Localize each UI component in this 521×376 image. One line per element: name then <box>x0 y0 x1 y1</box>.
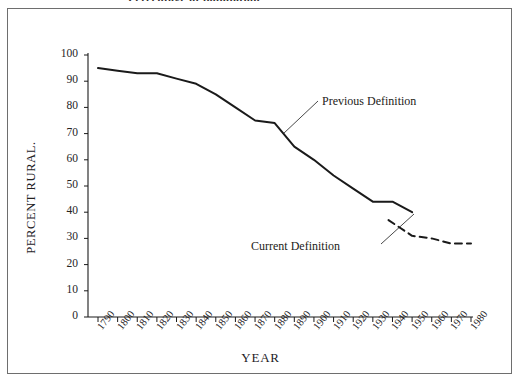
y-tick-label: 50 <box>48 178 78 190</box>
y-tick-label: 30 <box>48 230 78 242</box>
leader-line-previous <box>283 101 318 134</box>
x-axis-title: YEAR <box>0 350 521 366</box>
series-previous-definition <box>98 68 412 212</box>
annotation-current-definition: Current Definition <box>251 239 340 254</box>
y-axis-ticks <box>84 55 88 317</box>
y-tick-label: 100 <box>48 47 78 59</box>
chart-axes <box>88 53 473 317</box>
y-tick-label: 0 <box>48 309 78 321</box>
y-axis-title: PERCENT RURAL. <box>24 138 39 258</box>
series-current-definition <box>389 220 472 244</box>
y-tick-label: 20 <box>48 257 78 269</box>
y-tick-label: 90 <box>48 73 78 85</box>
y-tick-label: 60 <box>48 152 78 164</box>
y-tick-label: 70 <box>48 126 78 138</box>
y-tick-label: 80 <box>48 99 78 111</box>
annotation-previous-definition: Previous Definition <box>322 94 416 109</box>
y-tick-label: 40 <box>48 204 78 216</box>
rural-population-chart: PERCENT RURAL. YEAR 01020304050607080901… <box>0 0 521 376</box>
leader-line-current <box>381 214 414 244</box>
y-tick-label: 10 <box>48 283 78 295</box>
